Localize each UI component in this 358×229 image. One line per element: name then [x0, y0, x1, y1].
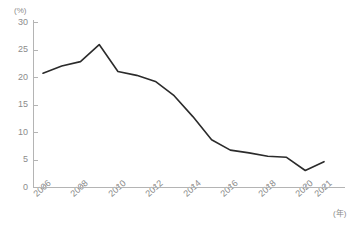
data-series-line: [43, 45, 324, 171]
line-chart: (%) (年) 051015202530 2006200820102012201…: [0, 0, 358, 229]
y-axis-ticks: [34, 23, 38, 188]
x-axis-ticks: [44, 184, 325, 188]
plot-area: [0, 0, 358, 229]
